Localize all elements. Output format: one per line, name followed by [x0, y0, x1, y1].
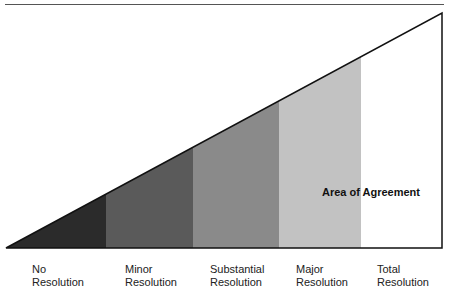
- label-line1: No: [32, 263, 84, 276]
- band-substantial-resolution: [193, 0, 279, 250]
- band-no-resolution: [6, 0, 106, 250]
- label-total-resolution: Total Resolution: [377, 263, 429, 289]
- area-of-agreement-label: Area of Agreement: [322, 186, 420, 198]
- label-line2: Resolution: [210, 276, 264, 289]
- label-line2: Resolution: [32, 276, 84, 289]
- label-minor-resolution: Minor Resolution: [125, 263, 177, 289]
- label-line1: Substantial: [210, 263, 264, 276]
- label-line2: Resolution: [296, 276, 348, 289]
- resolution-triangle: [0, 0, 449, 295]
- label-no-resolution: No Resolution: [32, 263, 84, 289]
- band-total-resolution: [361, 0, 443, 250]
- band-minor-resolution: [106, 0, 193, 250]
- band-major-resolution: [279, 0, 361, 250]
- label-line1: Minor: [125, 263, 177, 276]
- label-major-resolution: Major Resolution: [296, 263, 348, 289]
- label-line1: Total: [377, 263, 429, 276]
- label-line2: Resolution: [125, 276, 177, 289]
- label-substantial-resolution: Substantial Resolution: [210, 263, 264, 289]
- label-line1: Major: [296, 263, 348, 276]
- label-line2: Resolution: [377, 276, 429, 289]
